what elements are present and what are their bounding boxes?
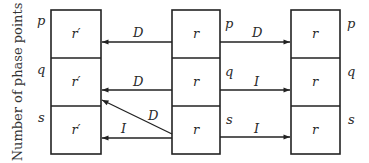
arrow-label-left-diagonal: D	[147, 108, 159, 123]
arrow-label-left-s: I	[120, 121, 127, 136]
arrow-label-left-q: D	[132, 74, 144, 89]
cell-c1-q: r′	[71, 74, 80, 89]
arrow-label-right-p: D	[251, 25, 263, 40]
arrow-label-right-q: I	[253, 74, 260, 89]
cell-c3-q: r	[312, 74, 319, 89]
cell-c2-p: r	[193, 26, 200, 41]
cell-c1-s: r′	[71, 122, 80, 137]
phase-points-diagram: Number of phase points p q s p q s p q s…	[0, 0, 369, 163]
row-label-s-left: s	[38, 110, 45, 125]
cell-c1-p: r′	[71, 26, 80, 41]
cell-c2-s: r	[193, 122, 200, 137]
row-label-s-mid: s	[226, 112, 233, 127]
arrow-label-right-s: I	[253, 121, 260, 136]
cell-c2-q: r	[193, 74, 200, 89]
row-label-q-left: q	[37, 62, 45, 77]
row-label-p-left: p	[37, 13, 46, 28]
cell-c3-s: r	[312, 122, 319, 137]
arrow-label-left-p: D	[132, 25, 144, 40]
row-label-s-right: s	[348, 112, 355, 127]
y-axis-label: Number of phase points	[10, 3, 25, 162]
row-label-p-mid: p	[225, 16, 234, 31]
cell-c3-p: r	[312, 26, 319, 41]
arrow-left-diagonal	[102, 100, 172, 134]
row-label-p-right: p	[347, 16, 356, 31]
row-label-q-mid: q	[225, 64, 233, 79]
row-label-q-right: q	[347, 64, 355, 79]
